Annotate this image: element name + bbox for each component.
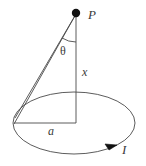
point-p-dot: [72, 9, 80, 17]
slant-line-lower: [14, 14, 76, 124]
label-angle-theta: θ: [60, 45, 66, 57]
label-point-p: P: [88, 8, 96, 21]
label-axial-distance-x: x: [82, 66, 87, 78]
label-radius-a: a: [48, 125, 54, 137]
physics-figure: P θ x a I: [0, 0, 146, 166]
angle-arc-theta: [62, 38, 76, 42]
label-current-i: I: [122, 143, 126, 156]
